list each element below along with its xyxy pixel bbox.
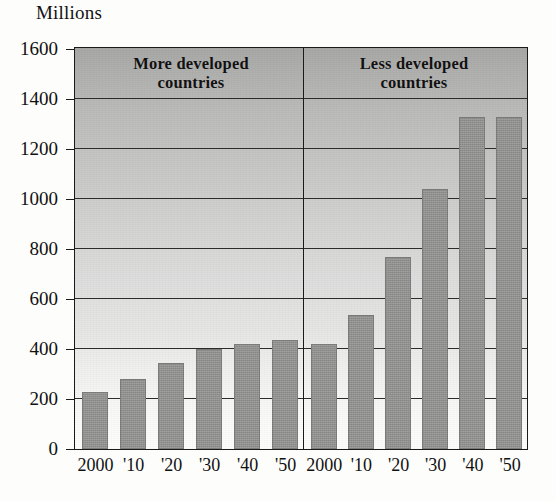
- x-axis-label-less-10: '10: [351, 455, 372, 476]
- bar-more-30: [196, 349, 222, 449]
- x-axis-label-more-30: '30: [199, 455, 220, 476]
- x-axis-label-more-10: '10: [123, 455, 144, 476]
- y-axis-label-0: 0: [0, 438, 58, 460]
- y-axis-label-800: 800: [0, 238, 58, 260]
- bar-more-20: [158, 363, 184, 449]
- x-axis-label-less-50: '50: [499, 455, 520, 476]
- y-tick-0: [66, 449, 75, 450]
- bar-less-50: [496, 117, 522, 450]
- bar-less-40: [459, 117, 485, 450]
- y-axis-label-1000: 1000: [0, 188, 58, 210]
- bar-more-2000: [82, 392, 108, 450]
- bar-more-40: [234, 344, 260, 449]
- bar-more-10: [120, 379, 146, 449]
- x-axis-label-less-30: '30: [425, 455, 446, 476]
- panel-label-less-developed-line1: Less developed: [360, 54, 469, 73]
- bar-more-50: [272, 340, 298, 449]
- y-tick-400: [66, 349, 75, 350]
- chart-figure: Millions More developed countries Less d…: [0, 0, 556, 502]
- y-axis-label-1600: 1600: [0, 38, 58, 60]
- bar-less-30: [422, 189, 448, 449]
- panel-label-more-developed-line2: countries: [158, 73, 225, 92]
- panel-label-less-developed: Less developed countries: [307, 54, 521, 92]
- y-tick-1200: [66, 149, 75, 150]
- gridline-1400: [75, 98, 527, 99]
- bar-less-10: [348, 315, 374, 449]
- x-axis-label-less-20: '20: [388, 455, 409, 476]
- y-tick-1000: [66, 199, 75, 200]
- x-axis-label-more-40: '40: [237, 455, 258, 476]
- y-tick-1400: [66, 99, 75, 100]
- x-axis-label-more-50: '50: [275, 455, 296, 476]
- y-axis-label-400: 400: [0, 338, 58, 360]
- panel-label-more-developed: More developed countries: [83, 54, 299, 92]
- y-axis-label-1400: 1400: [0, 88, 58, 110]
- y-axis-label-1200: 1200: [0, 138, 58, 160]
- y-axis-label-200: 200: [0, 388, 58, 410]
- x-axis-label-more-20: '20: [161, 455, 182, 476]
- x-axis-label-more-2000: 2000: [78, 455, 114, 476]
- x-axis-label-less-2000: 2000: [306, 455, 342, 476]
- y-axis-title: Millions: [36, 2, 102, 24]
- y-tick-200: [66, 399, 75, 400]
- bar-less-20: [385, 257, 411, 450]
- panel-label-less-developed-line2: countries: [381, 73, 448, 92]
- bar-less-2000: [311, 344, 337, 449]
- y-tick-800: [66, 249, 75, 250]
- y-axis-label-600: 600: [0, 288, 58, 310]
- panel-divider: [303, 48, 304, 449]
- plot-area: More developed countries Less developed …: [74, 47, 528, 450]
- y-tick-600: [66, 299, 75, 300]
- y-tick-1600: [66, 49, 75, 50]
- x-axis-label-less-40: '40: [462, 455, 483, 476]
- panel-label-more-developed-line1: More developed: [133, 54, 249, 73]
